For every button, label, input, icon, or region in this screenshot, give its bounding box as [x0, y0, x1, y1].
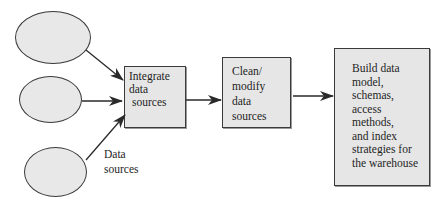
data-source-ellipse-3: [24, 147, 87, 197]
integrate-line-3: sources: [129, 96, 185, 109]
build-line-2: model,: [352, 76, 429, 90]
build-line-8: the warehouse: [352, 157, 429, 171]
integrate-line-1: Integrate: [129, 70, 185, 83]
build-line-6: and index: [352, 130, 429, 144]
clean-line-2: modify: [232, 79, 290, 94]
data-source-ellipse-2: [19, 76, 82, 123]
arrow-source-1-to-integrate: [86, 50, 123, 80]
data-sources-label-line-1: Data: [104, 147, 139, 162]
data-sources-label-line-2: sources: [104, 162, 139, 177]
build-line-5: methods,: [352, 116, 429, 130]
build-line-1: Build data: [352, 62, 429, 76]
build-line-3: schemas,: [352, 89, 429, 103]
integrate-line-2: data: [129, 83, 185, 96]
build-data-model-box: Build data model, schemas, access method…: [334, 48, 430, 186]
build-line-4: access: [352, 103, 429, 117]
data-sources-label: Data sources: [104, 147, 139, 177]
clean-line-1: Clean/: [232, 64, 290, 79]
clean-modify-data-sources-box: Clean/ modify data sources: [222, 57, 291, 128]
build-line-7: strategies for: [352, 143, 429, 157]
data-warehouse-diagram: Data sources Integrate data sources Clea…: [0, 0, 446, 209]
data-source-ellipse-1: [15, 11, 91, 64]
integrate-data-sources-box: Integrate data sources: [124, 66, 186, 128]
clean-line-4: sources: [232, 109, 290, 124]
clean-line-3: data: [232, 94, 290, 109]
